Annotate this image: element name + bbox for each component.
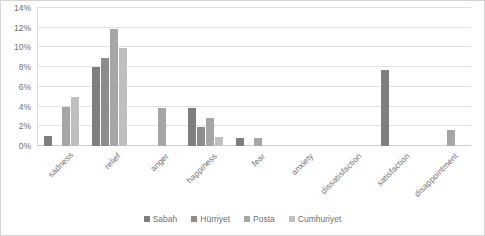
bar-cluster [230,8,278,146]
bars-group [37,8,471,146]
legend-item[interactable]: Hürriyet [191,214,230,224]
y-tick-label: 6% [0,82,31,92]
bar-cluster [278,8,326,146]
bar [236,138,244,146]
y-tick-label: 12% [0,23,31,33]
legend-item[interactable]: Sabah [144,214,178,224]
bar [447,130,455,146]
bar [206,118,214,146]
x-axis-category-labels: sadnessreliefangerhappinessfearanxietydi… [37,147,471,205]
bar-cluster [37,8,85,146]
bar-cluster [85,8,133,146]
y-tick-label: 8% [0,62,31,72]
legend-label: Posta [253,214,275,224]
y-tick-label: 2% [0,121,31,131]
bar-cluster [423,8,471,146]
y-tick-label: 10% [0,42,31,52]
bar [62,107,70,146]
bar-cluster [326,8,374,146]
chart-container: 0%2%4%6%8%10%12%14% sadnessreliefangerha… [0,0,485,236]
bar [44,136,52,146]
bar [254,138,262,146]
bar [92,67,100,146]
legend-swatch-icon [289,216,295,222]
bar [101,58,109,146]
y-tick-label: 4% [0,102,31,112]
bar [71,97,79,146]
bar-cluster [133,8,181,146]
legend-swatch-icon [144,216,150,222]
legend-item[interactable]: Posta [244,214,275,224]
legend-swatch-icon [191,216,197,222]
legend-item[interactable]: Cumhuriyet [289,214,341,224]
x-tick-label: sadness [46,151,74,179]
bar [158,108,166,146]
bar [119,48,127,146]
bar [197,127,205,146]
bar [381,70,389,146]
bar [215,137,223,146]
legend-label: Cumhuriyet [298,214,341,224]
y-tick-label: 0% [0,141,31,151]
bar-cluster [375,8,423,146]
chart-legend: SabahHürriyetPostaCumhuriyet [1,214,484,224]
bar [110,29,118,146]
legend-label: Hürriyet [200,214,230,224]
legend-label: Sabah [153,214,178,224]
bar-cluster [182,8,230,146]
legend-swatch-icon [244,216,250,222]
plot-area [37,8,471,146]
y-tick-label: 14% [0,3,31,13]
bar [188,108,196,146]
